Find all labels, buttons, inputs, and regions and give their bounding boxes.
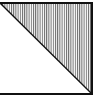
figure — [0, 0, 96, 100]
diagonal-hatched-rectangle-diagram — [0, 0, 96, 100]
